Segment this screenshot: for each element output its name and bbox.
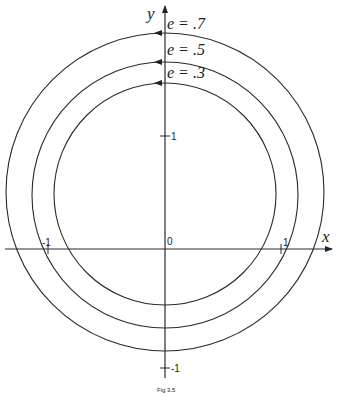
curve-label-e-03: e = .3	[167, 64, 205, 81]
origin-label: 0	[167, 236, 173, 247]
curve-label-e-05: e = .5	[167, 41, 205, 58]
circles-diagram: y x e = .7 e = .5 e = .3 0 1 -1 1 -1 Fig…	[0, 0, 337, 396]
x-tick-label-pos: 1	[283, 237, 289, 248]
y-axis-label: y	[145, 4, 155, 23]
y-tick-label-neg: -1	[171, 363, 180, 374]
arrow-icon	[154, 59, 162, 65]
figure-caption: Fig 3.5	[157, 387, 176, 393]
y-tick-label-pos: 1	[171, 131, 177, 142]
x-tick-label-neg: -1	[42, 237, 51, 248]
arrow-icon	[154, 30, 162, 36]
x-axis-label: x	[321, 227, 330, 246]
curve-label-e-07: e = .7	[167, 15, 206, 32]
arrow-icon	[154, 80, 162, 86]
